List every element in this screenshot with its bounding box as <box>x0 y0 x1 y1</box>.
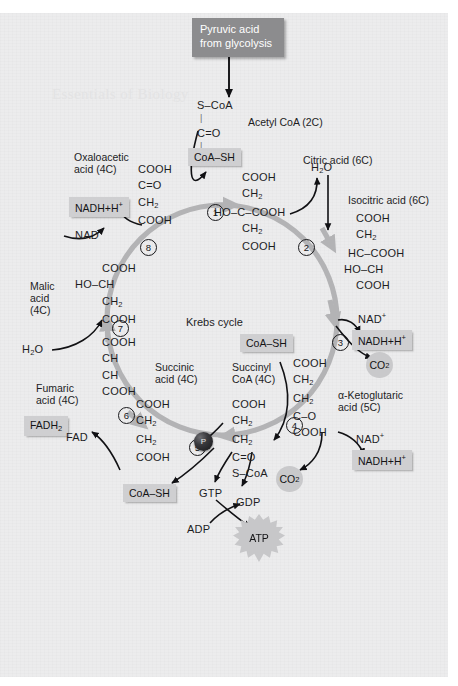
oxalo-s4: COOH <box>138 214 172 226</box>
malic-s1: COOH <box>102 262 136 274</box>
fad-label: FAD <box>66 431 88 443</box>
malic-structure: COOH HO–CH CH2 COOH <box>75 262 136 325</box>
acetyl-line-1: S–CoA <box>197 99 233 111</box>
malic-acid-label: Malic acid (4C) <box>30 281 55 316</box>
succinic-s2: CH2 <box>136 414 170 428</box>
citric-line-2: CH2 <box>242 187 285 201</box>
citric-line-4: CH2 <box>242 222 285 236</box>
ketoglutaric-s2: CH2 <box>293 373 327 387</box>
succinyl-s4: C=O <box>232 451 268 463</box>
adp-label: ADP <box>187 523 210 535</box>
ketoglutaric-line1: α-Ketoglutaric <box>338 390 403 402</box>
water-label-step7: H2O <box>22 343 43 357</box>
gdp-label: GDP <box>236 496 260 508</box>
nad-label-step8: NAD <box>75 229 99 241</box>
ketoglutaric-acid-label: α-Ketoglutaric acid (5C) <box>338 390 403 414</box>
isocitric-line-4: HO–CH <box>344 263 404 275</box>
succinic-line2: acid (4C) <box>155 374 198 386</box>
succinyl-line1: Succinyl <box>232 362 275 374</box>
ketoglutaric-s3: CH2 <box>293 392 327 406</box>
oxaloacetic-acid-label: Oxaloacetic acid (4C) <box>74 152 129 176</box>
succinic-s3: CH2 <box>136 433 170 447</box>
coash-chip-step4: CoA–SH <box>240 334 293 352</box>
citric-line-5: COOH <box>242 240 285 252</box>
coash-chip-step1: CoA–SH <box>188 148 241 166</box>
center-title: Krebs cycle <box>186 316 243 328</box>
malic-line3: (4C) <box>30 305 55 317</box>
co2-blob-step4: CO2 <box>276 466 303 492</box>
succinyl-coa-label: Succinyl CoA (4C) <box>232 362 275 386</box>
nad-plus-label-step4: NAD+ <box>356 432 384 445</box>
acetyl-line-2: C=O <box>197 127 233 139</box>
succinic-line1: Succinic <box>155 362 198 374</box>
isocitric-line-1: COOH <box>356 212 404 224</box>
oxaloacetic-line2: acid (4C) <box>74 164 129 176</box>
isocitric-acid-structure: COOH CH2 HC–COOH HO–CH COOH <box>356 212 404 292</box>
succinyl-s1: COOH <box>232 398 268 410</box>
water-label-step2: H2O <box>311 161 332 175</box>
fumaric-line2: acid (4C) <box>36 395 79 407</box>
citric-line-1: COOH <box>242 171 285 183</box>
oxaloacetic-structure: COOH C=O CH2 COOH <box>138 163 172 226</box>
malic-line1: Malic <box>30 281 55 293</box>
fumaric-s3: CH <box>102 369 136 381</box>
succinic-s1: COOH <box>136 398 170 410</box>
succinyl-structure: COOH CH2 CH2 C=O S–CoA <box>232 398 268 480</box>
malic-s4: COOH <box>102 313 136 325</box>
arrow-step6-fadh2 <box>92 432 120 470</box>
citric-line-3: HO–C–COOH <box>214 206 285 218</box>
ketoglutaric-s5: COOH <box>293 426 327 438</box>
arrow-step5-gtp-out <box>215 452 232 482</box>
succinyl-line2: CoA (4C) <box>232 374 275 386</box>
nadh-chip-step4: NADH+H+ <box>352 450 412 470</box>
step-badge-2: 2 <box>298 239 315 256</box>
arrow-step2-water-out <box>290 178 317 214</box>
ketoglutaric-s1: COOH <box>293 357 327 369</box>
succinic-structure: COOH CH2 CH2 COOH <box>136 398 170 463</box>
fumaric-structure: COOH CH CH COOH <box>102 336 136 397</box>
acetyl-coa-label: Acetyl CoA (2C) <box>248 117 323 129</box>
isocitric-line-3: HC–COOH <box>348 247 404 259</box>
isocitric-line-5: COOH <box>356 279 404 291</box>
oxalo-s1: COOH <box>138 163 172 175</box>
phosphate-sphere: P <box>194 432 213 451</box>
co2-blob-step3: CO2 <box>366 352 393 378</box>
ketoglutaric-s4: C–O <box>293 410 327 422</box>
gtp-label: GTP <box>199 487 222 499</box>
step-badge-8: 8 <box>140 239 157 256</box>
krebs-cycle-figure: Essentials of Biology <box>0 0 458 686</box>
pyruvic-acid-line1: Pyruvic acid <box>200 23 259 35</box>
fadh2-chip: FADH2 <box>24 416 68 436</box>
coash-chip-step5: CoA–SH <box>123 484 176 502</box>
oxalo-s3: CH2 <box>138 196 172 210</box>
nad-plus-label-step3: NAD+ <box>358 312 386 325</box>
fumaric-acid-label: Fumaric acid (4C) <box>36 383 79 407</box>
succinic-acid-label: Succinic acid (4C) <box>155 362 198 386</box>
fumaric-s4: COOH <box>102 385 136 397</box>
step-badge-3: 3 <box>332 334 349 351</box>
oxaloacetic-line1: Oxaloacetic <box>74 152 129 164</box>
isocitric-line-2: CH2 <box>356 228 404 242</box>
pyruvic-acid-line2: from glycolysis <box>200 37 272 49</box>
succinyl-s3: CH2 <box>232 433 268 447</box>
isocitric-acid-label: Isocitric acid (6C) <box>348 195 429 207</box>
succinyl-s5: S–CoA <box>232 467 268 479</box>
fumaric-s1: COOH <box>102 336 136 348</box>
ketoglutaric-structure: COOH CH2 CH2 C–O COOH <box>293 357 327 439</box>
nadh-chip-step3: NADH+H+ <box>352 330 412 350</box>
oxalo-s2: C=O <box>138 179 172 191</box>
step-badge-6: 6 <box>118 407 135 424</box>
citric-acid-structure: COOH CH2 HO–C–COOH CH2 COOH <box>242 171 285 253</box>
malic-s3: CH2 <box>102 295 136 309</box>
fumaric-line1: Fumaric <box>36 383 79 395</box>
succinic-s4: COOH <box>136 451 170 463</box>
nadh-chip-step8: NADH+H+ <box>69 197 129 217</box>
malic-line2: acid <box>30 293 55 305</box>
pyruvic-acid-source-box: Pyruvic acid from glycolysis <box>192 18 284 57</box>
malic-s2: HO–CH <box>75 278 136 290</box>
ketoglutaric-line2: acid (5C) <box>338 402 403 414</box>
succinyl-s2: CH2 <box>232 414 268 428</box>
fumaric-s2: CH <box>102 352 136 364</box>
